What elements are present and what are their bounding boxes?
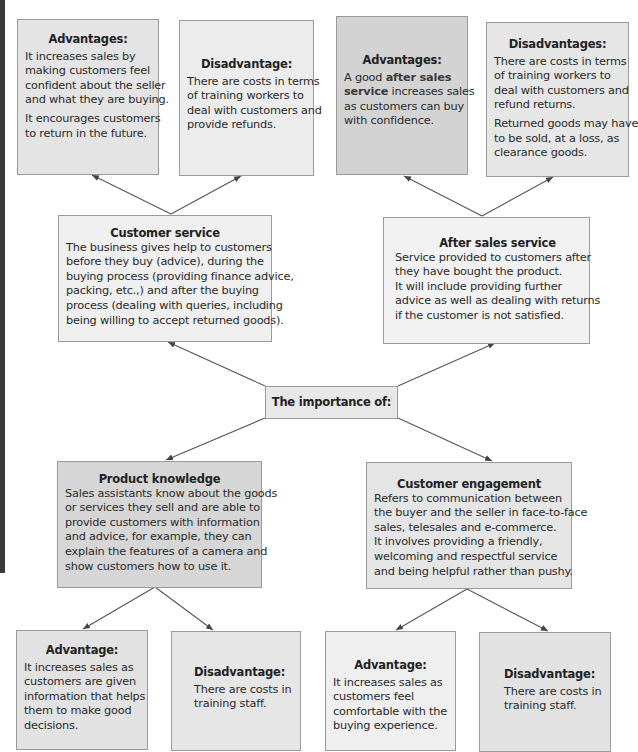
topic-heading: Customer service: [66, 226, 264, 241]
arrow-as-to-disadvantages: [482, 177, 553, 216]
box-heading: Advantages:: [344, 53, 460, 68]
advantage-text: It increases sales as customers feel com…: [333, 676, 448, 734]
box-heading: Advantage:: [333, 658, 448, 673]
box-heading: Advantage:: [24, 643, 140, 658]
disadvantage-text: Returned goods may have to be sold, at a…: [494, 117, 621, 161]
arrow-as-to-advantages: [404, 176, 482, 216]
advantage-text: A good after sales service increases sal…: [344, 71, 460, 129]
advantage-text: It increases sales by making customers f…: [25, 50, 151, 108]
topic-description: Refers to communication between the buye…: [374, 492, 564, 580]
arrow-pk-to-disadvantage: [155, 587, 213, 630]
topic-description: Service provided to customers after they…: [395, 251, 582, 324]
customer-engagement-box: Customer engagement Refers to communicat…: [366, 462, 572, 589]
page-edge-strip: [0, 0, 5, 573]
box-heading: Advantages:: [25, 32, 151, 47]
box-heading: Disadvantage:: [187, 57, 306, 72]
box-heading: Disadvantage:: [194, 665, 293, 680]
customer-engagement-disadvantage-box: Disadvantage: There are costs in trainin…: [479, 632, 611, 752]
after-sales-advantages-box: Advantages: A good after sales service i…: [336, 16, 468, 175]
product-knowledge-disadvantage-box: Disadvantage: There are costs in trainin…: [171, 631, 301, 751]
disadvantage-text: There are costs in training staff.: [194, 683, 293, 712]
customer-engagement-advantage-box: Advantage: It increases sales as custome…: [325, 631, 456, 751]
product-knowledge-box: Product knowledge Sales assistants know …: [57, 461, 262, 588]
arrow-center-to-after-sales: [398, 343, 495, 386]
disadvantage-text: There are costs in terms of training wor…: [494, 55, 621, 113]
after-sales-service-box: After sales service Service provided to …: [383, 217, 590, 344]
arrow-ce-to-advantage: [396, 589, 467, 630]
importance-center-box: The importance of:: [265, 386, 398, 419]
advantage-text: It increases sales as customers are give…: [24, 661, 140, 734]
advantage-text: It encourages customers to return in the…: [25, 112, 151, 141]
topic-heading: Customer engagement: [374, 477, 564, 492]
customer-service-disadvantage-box: Disadvantage: There are costs in terms o…: [179, 20, 314, 176]
after-sales-disadvantages-box: Disadvantages: There are costs in terms …: [486, 22, 629, 177]
customer-service-advantages-box: Advantages: It increases sales by making…: [17, 19, 159, 175]
arrow-ce-to-disadvantage: [467, 589, 548, 631]
box-heading: Disadvantage:: [504, 667, 603, 682]
arrow-pk-to-advantage: [83, 587, 155, 629]
customer-service-box: Customer service The business gives help…: [58, 215, 272, 342]
topic-description: The business gives help to customers bef…: [66, 241, 264, 329]
disadvantage-text: There are costs in terms of training wor…: [187, 75, 306, 133]
arrow-center-to-customer-engagement: [398, 418, 492, 461]
arrow-center-to-customer-service: [168, 342, 265, 386]
product-knowledge-advantage-box: Advantage: It increases sales as custome…: [16, 630, 148, 750]
box-heading: Disadvantages:: [494, 37, 621, 52]
arrow-cs-to-advantages: [92, 175, 171, 214]
disadvantage-text: There are costs in training staff.: [504, 685, 603, 714]
topic-heading: Product knowledge: [65, 472, 254, 487]
topic-description: Sales assistants know about the goods or…: [65, 487, 254, 575]
arrow-center-to-product-knowledge: [166, 418, 265, 460]
center-heading: The importance of:: [266, 395, 397, 410]
arrow-cs-to-disadvantage: [171, 176, 241, 214]
topic-heading: After sales service: [395, 236, 582, 251]
